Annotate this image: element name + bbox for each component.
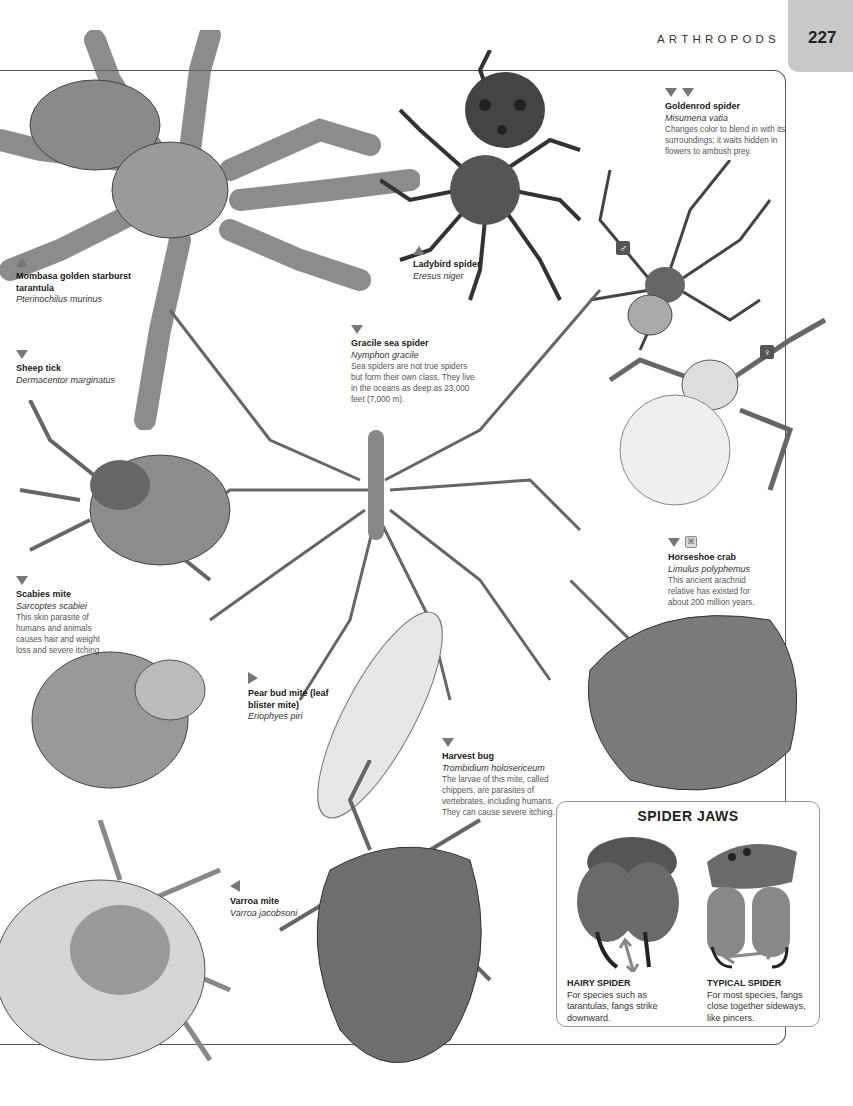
label-pear-bud: Pear bud mite (leaf blister mite) Erioph… bbox=[248, 672, 348, 723]
typical-spider-caption: TYPICAL SPIDER For most species, fangs c… bbox=[707, 978, 817, 1024]
latin-name: Limulus polyphemus bbox=[668, 564, 768, 576]
spider-jaws-panel: SPIDER JAWS HAIRY SPIDER For species suc… bbox=[556, 801, 820, 1027]
hairy-spider-heading: HAIRY SPIDER bbox=[567, 978, 677, 990]
arrow-down-icon bbox=[682, 88, 694, 97]
label-sheep-tick: Sheep tick Dermacentor marginatus bbox=[16, 350, 146, 386]
arrow-up-icon bbox=[16, 258, 28, 267]
spider-jaws-title: SPIDER JAWS bbox=[557, 808, 819, 824]
typical-spider-jaws-illustration bbox=[697, 832, 812, 972]
typical-spider-heading: TYPICAL SPIDER bbox=[707, 978, 817, 990]
arrow-down-icon bbox=[668, 538, 680, 547]
common-name: Scabies mite bbox=[16, 589, 116, 601]
arrow-up-icon bbox=[413, 246, 425, 255]
common-name: Horseshoe crab bbox=[668, 552, 768, 564]
label-harvest: Harvest bug Trombidium holosericeum The … bbox=[442, 738, 557, 818]
typical-spider-text: For most species, fangs close together s… bbox=[707, 990, 817, 1025]
female-symbol-icon: ♀ bbox=[760, 345, 774, 359]
latin-name: Pterinochilus murinus bbox=[16, 294, 146, 306]
latin-name: Varroa jacobsoni bbox=[230, 908, 330, 920]
latin-name: Trombidium holosericeum bbox=[442, 763, 557, 775]
latin-name: Dermacentor marginatus bbox=[16, 375, 146, 387]
male-symbol-icon: ♂ bbox=[616, 241, 630, 255]
arrow-down-icon bbox=[16, 576, 28, 585]
common-name: Sheep tick bbox=[16, 363, 146, 375]
sheep-tick-illustration bbox=[10, 400, 240, 590]
horseshoe-crab-illustration bbox=[570, 580, 810, 810]
common-name: Varroa mite bbox=[230, 896, 330, 908]
fossil-icon: ⌘ bbox=[685, 536, 697, 548]
label-ladybird: Ladybird spider Eresus niger bbox=[413, 246, 513, 282]
page-number: 227 bbox=[808, 28, 836, 48]
hairy-spider-text: For species such as tarantulas, fangs st… bbox=[567, 990, 677, 1025]
label-horseshoe: ⌘ Horseshoe crab Limulus polyphemus This… bbox=[668, 536, 768, 608]
varroa-mite-illustration bbox=[0, 820, 240, 1070]
arrow-down-icon bbox=[351, 325, 363, 334]
description: Changes color to blend in with its surro… bbox=[665, 124, 790, 157]
description: The larvae of this mite, called chippers… bbox=[442, 774, 557, 818]
label-varroa: Varroa mite Varroa jacobsoni bbox=[230, 880, 330, 919]
common-name: Gracile sea spider bbox=[351, 338, 476, 350]
scabies-mite-illustration bbox=[20, 640, 220, 800]
common-name: Pear bud mite (leaf blister mite) bbox=[248, 688, 348, 711]
arrow-down-icon bbox=[16, 350, 28, 359]
double-arrow-icon bbox=[620, 940, 638, 972]
arrow-right-icon bbox=[248, 672, 258, 684]
label-mombasa: Mombasa golden starburst tarantula Pteri… bbox=[16, 258, 146, 306]
section-title: ARTHROPODS bbox=[657, 33, 780, 45]
hairy-spider-caption: HAIRY SPIDER For species such as tarantu… bbox=[567, 978, 677, 1024]
label-scabies: Scabies mite Sarcoptes scabiei This skin… bbox=[16, 576, 116, 656]
arrow-down-icon bbox=[442, 738, 454, 747]
common-name: Harvest bug bbox=[442, 751, 557, 763]
latin-name: Eriophyes piri bbox=[248, 711, 348, 723]
arrow-left-icon bbox=[230, 880, 240, 892]
latin-name: Misumena vatia bbox=[665, 113, 790, 125]
hairy-spider-jaws-illustration bbox=[567, 832, 682, 972]
description: This skin parasite of humans and animals… bbox=[16, 612, 116, 656]
goldenrod-spider-female-illustration bbox=[600, 300, 830, 520]
latin-name: Nymphon gracile bbox=[351, 350, 476, 362]
common-name: Mombasa golden starburst tarantula bbox=[16, 271, 146, 294]
common-name: Goldenrod spider bbox=[665, 101, 790, 113]
label-gracile: Gracile sea spider Nymphon gracile Sea s… bbox=[351, 325, 476, 405]
latin-name: Eresus niger bbox=[413, 271, 513, 283]
arrow-down-icon bbox=[665, 88, 677, 97]
common-name: Ladybird spider bbox=[413, 259, 513, 271]
description: This ancient arachnid relative has exist… bbox=[668, 575, 768, 608]
latin-name: Sarcoptes scabiei bbox=[16, 601, 116, 613]
description: Sea spiders are not true spiders but for… bbox=[351, 361, 476, 405]
label-goldenrod: Goldenrod spider Misumena vatia Changes … bbox=[665, 88, 790, 157]
